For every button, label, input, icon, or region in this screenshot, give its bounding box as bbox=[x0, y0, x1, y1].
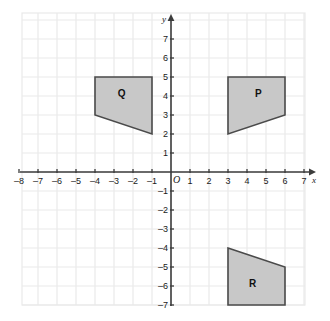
y-axis-tick-label: –4 bbox=[158, 244, 168, 253]
shape-polygon-p bbox=[228, 77, 285, 134]
shape-label-q: Q bbox=[118, 89, 126, 99]
y-axis-tick-label: 6 bbox=[163, 54, 168, 63]
x-axis-tick-label: 3 bbox=[225, 177, 230, 186]
x-axis-tick-label: 5 bbox=[263, 177, 268, 186]
x-axis-tick-label: –7 bbox=[33, 177, 43, 186]
x-axis-tick-label: 7 bbox=[301, 177, 306, 186]
x-axis-name-label: x bbox=[312, 176, 316, 185]
y-axis-tick-label: 4 bbox=[163, 92, 168, 101]
x-axis-tick-label: 6 bbox=[282, 177, 287, 186]
x-axis-tick-label: 2 bbox=[206, 177, 211, 186]
coordinate-plot-svg bbox=[0, 0, 330, 321]
shape-label-p: P bbox=[255, 89, 262, 99]
y-axis-tick-label: 5 bbox=[163, 73, 168, 82]
y-axis-tick-label: –6 bbox=[158, 282, 168, 291]
x-axis-tick-label: –4 bbox=[90, 177, 100, 186]
x-axis-tick-label: –5 bbox=[71, 177, 81, 186]
y-axis-tick-label: –1 bbox=[158, 187, 168, 196]
shape-polygon-q bbox=[95, 77, 152, 134]
x-axis-tick-label: 4 bbox=[244, 177, 249, 186]
x-axis-tick-label: –3 bbox=[109, 177, 119, 186]
y-axis-tick-label: 7 bbox=[163, 35, 168, 44]
x-axis-tick-label: –1 bbox=[147, 177, 157, 186]
x-axis-tick-label: –8 bbox=[14, 177, 24, 186]
y-axis-tick-label: 2 bbox=[163, 130, 168, 139]
origin-label: O bbox=[173, 175, 180, 185]
y-axis-tick-label: 1 bbox=[163, 149, 168, 158]
x-axis-tick-label: –6 bbox=[52, 177, 62, 186]
shape-label-r: R bbox=[249, 279, 256, 289]
y-axis-tick-label: –5 bbox=[158, 263, 168, 272]
x-axis-tick-label: 1 bbox=[187, 177, 192, 186]
x-axis-tick-label: –2 bbox=[128, 177, 138, 186]
y-axis-name-label: y bbox=[162, 15, 166, 24]
y-axis-tick-label: –2 bbox=[158, 206, 168, 215]
y-axis-tick-label: 3 bbox=[163, 111, 168, 120]
shape-polygon-r bbox=[228, 248, 285, 305]
coordinate-plane-figure: –8–7–6–5–4–3–2–112345677654321–1–2–3–4–5… bbox=[0, 0, 330, 321]
y-axis-tick-label: –3 bbox=[158, 225, 168, 234]
y-axis-arrow bbox=[168, 14, 175, 21]
y-axis-tick-label: –7 bbox=[158, 301, 168, 310]
